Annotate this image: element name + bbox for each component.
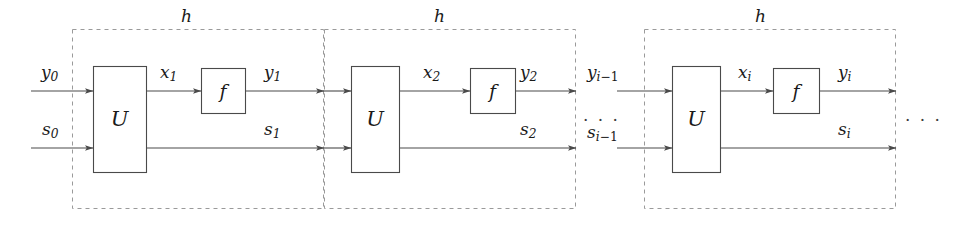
stage-i-input-top-label: yi−1 bbox=[587, 64, 619, 84]
stage-1-f-block-label: f bbox=[201, 68, 245, 113]
stage-i-output-top-label: yi bbox=[838, 64, 852, 84]
stage-1-intermediate-label: x1 bbox=[160, 64, 177, 84]
ellipsis-right: · · · bbox=[905, 110, 942, 130]
stage-i-output-bottom-label: si bbox=[838, 121, 851, 141]
stage-2-f-block-label: f bbox=[470, 68, 515, 113]
stage-1-output-bottom-label: s1 bbox=[264, 121, 281, 141]
stage-1-output-top-label: y1 bbox=[264, 64, 281, 84]
stage-2-output-bottom-label: s2 bbox=[520, 121, 537, 141]
stage-i-group-label: h bbox=[755, 8, 766, 25]
stage-i-input-bottom-label: si−1 bbox=[587, 124, 618, 144]
stage-2-u-block-label: U bbox=[351, 66, 399, 172]
stage-2-group-label: h bbox=[434, 8, 445, 25]
stage-2-intermediate-label: x2 bbox=[423, 64, 440, 84]
figure-canvas: h U f y0 s0 x1 y1 s1 h U f x2 y2 s2 yi−1 bbox=[0, 0, 967, 225]
stage-1-input-top-label: y0 bbox=[41, 64, 58, 84]
stage-1-u-block-label: U bbox=[93, 66, 146, 172]
stage-i-f-block-label: f bbox=[773, 68, 819, 113]
stage-2-output-top-label: y2 bbox=[520, 64, 537, 84]
stage-1-input-bottom-label: s0 bbox=[42, 121, 59, 141]
stage-i-u-block-label: U bbox=[672, 66, 720, 172]
stage-1-group-label: h bbox=[181, 8, 192, 25]
stage-i-intermediate-label: xi bbox=[738, 64, 752, 84]
